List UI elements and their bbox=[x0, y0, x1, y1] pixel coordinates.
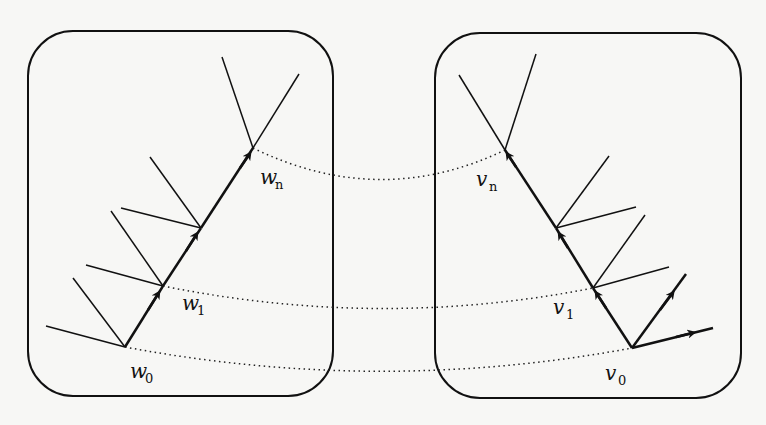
svg-text:v: v bbox=[605, 361, 617, 385]
left-panel-frame bbox=[28, 31, 333, 396]
svg-text:n: n bbox=[489, 179, 498, 194]
label-v0: v 0 bbox=[605, 361, 626, 388]
label-v1: v 1 bbox=[553, 295, 574, 322]
label-wn: w n bbox=[260, 165, 284, 192]
left-chain bbox=[46, 57, 299, 347]
svg-text:0: 0 bbox=[145, 371, 153, 386]
connection-wn-vn bbox=[253, 148, 505, 180]
right-panel-frame bbox=[435, 33, 741, 398]
diagram-canvas: w 0 w 1 w n v 0 v 1 v n bbox=[0, 0, 766, 425]
right-chain bbox=[459, 54, 713, 348]
connection-w0-v0 bbox=[125, 347, 632, 371]
svg-text:v: v bbox=[553, 295, 565, 319]
svg-text:1: 1 bbox=[197, 303, 205, 318]
svg-text:v: v bbox=[476, 167, 488, 191]
label-w0: w 0 bbox=[130, 359, 153, 386]
dotted-connections bbox=[125, 148, 632, 371]
svg-text:0: 0 bbox=[618, 373, 626, 388]
connection-w1-v1 bbox=[163, 286, 593, 309]
label-w1: w 1 bbox=[182, 291, 205, 318]
svg-text:1: 1 bbox=[566, 307, 574, 322]
label-vn: v n bbox=[476, 167, 498, 194]
svg-text:n: n bbox=[275, 177, 284, 192]
